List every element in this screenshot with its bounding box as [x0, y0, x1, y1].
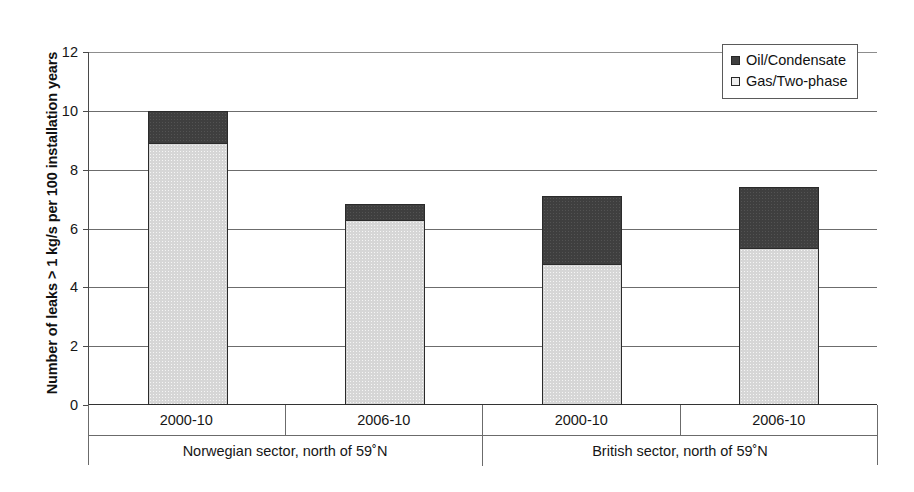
- bar-0-segment-oil-condensate: [148, 111, 228, 143]
- legend-label-oil-condensate: Oil/Condensate: [746, 53, 846, 68]
- category-label-2: 2000-10: [483, 405, 681, 435]
- y-tick-mark-2: [83, 346, 89, 347]
- plot-inner: 024681012: [89, 52, 877, 405]
- legend-item-oil-condensate: Oil/Condensate: [731, 50, 848, 71]
- y-tick-mark-6: [83, 229, 89, 230]
- category-label-1: 2006-10: [286, 405, 484, 435]
- bar-1: [345, 204, 425, 406]
- y-tick-mark-8: [83, 170, 89, 171]
- y-tick-mark-10: [83, 111, 89, 112]
- y-tick-label-8: 8: [70, 162, 78, 178]
- category-axis-right-border: [877, 405, 878, 465]
- y-tick-label-0: 0: [70, 397, 78, 413]
- category-label-3: 2006-10: [681, 405, 878, 435]
- category-label-0: 2000-10: [88, 405, 286, 435]
- legend-swatch-oil-icon: [731, 56, 740, 65]
- legend-item-gas-two-phase: Gas/Two-phase: [731, 71, 848, 92]
- bar-2: [542, 196, 622, 405]
- y-tick-label-6: 6: [70, 221, 78, 237]
- group-label-british-sector: British sector, north of 59˚N: [483, 436, 877, 466]
- y-tick-label-12: 12: [62, 44, 78, 60]
- legend-label-gas-two-phase: Gas/Two-phase: [746, 74, 848, 89]
- y-tick-mark-4: [83, 287, 89, 288]
- y-tick-mark-12: [83, 52, 89, 53]
- bar-2-segment-gas-two-phase: [542, 264, 622, 405]
- group-label-row: Norwegian sector, north of 59˚N British …: [88, 435, 877, 466]
- y-tick-label-2: 2: [70, 338, 78, 354]
- bar-3-segment-gas-two-phase: [739, 248, 819, 405]
- bar-0: [148, 111, 228, 405]
- legend-swatch-gas-icon: [731, 77, 740, 86]
- category-axis: 2000-10 2006-10 2000-10 2006-10 Norwegia…: [88, 405, 877, 465]
- plot-area: 024681012: [88, 52, 877, 405]
- y-axis-title: Number of leaks > 1 kg/s per 100 install…: [44, 23, 60, 423]
- y-tick-label-10: 10: [62, 103, 78, 119]
- group-label-norwegian-sector: Norwegian sector, north of 59˚N: [88, 436, 483, 466]
- bar-3-segment-oil-condensate: [739, 187, 819, 247]
- bar-0-segment-gas-two-phase: [148, 143, 228, 405]
- bar-1-segment-oil-condensate: [345, 204, 425, 220]
- category-label-row: 2000-10 2006-10 2000-10 2006-10: [88, 405, 877, 435]
- stacked-bar-chart: Number of leaks > 1 kg/s per 100 install…: [0, 0, 914, 492]
- y-tick-label-4: 4: [70, 279, 78, 295]
- bar-2-segment-oil-condensate: [542, 196, 622, 264]
- chart-legend: Oil/Condensate Gas/Two-phase: [722, 44, 858, 99]
- bar-1-segment-gas-two-phase: [345, 220, 425, 405]
- bar-3: [739, 187, 819, 405]
